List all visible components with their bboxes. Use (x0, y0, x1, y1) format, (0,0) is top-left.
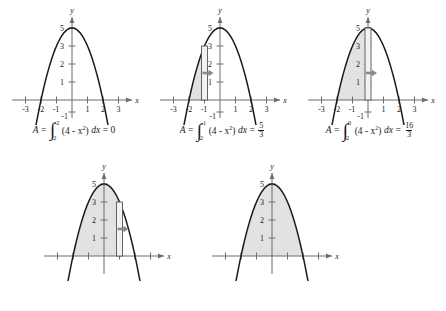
panel-2-caption: A = ∫ -1 -2 (4 - x2) dx = 5 3 (148, 122, 296, 139)
panel-4: 5 3 2 1 x y (32, 156, 180, 311)
result-equals-sign: = (102, 126, 109, 136)
ytick-label: -1 (61, 112, 68, 121)
ytick-label: -1 (357, 112, 364, 121)
panel-5-plot: 5 3 2 1 x y (200, 156, 348, 281)
panel-3-axis-labels: x y (365, 6, 435, 105)
panel-1-axis-labels: x y (69, 6, 139, 105)
x-axis-arrowhead (274, 98, 280, 103)
panel-1-caption: A = ∫ -2 -2 (4 - x2) dx = 0 (0, 122, 148, 139)
xtick-label: 1 (382, 105, 386, 114)
result-equals-sign: = (249, 126, 256, 136)
panel-2-integral-expression: A = ∫ -1 -2 (4 - x2) dx = 5 3 (180, 122, 265, 139)
xtick-label: -3 (318, 105, 325, 114)
panel-5: 5 3 2 1 x y (200, 156, 348, 311)
integral-sign-group: ∫ -2 -2 (50, 122, 59, 139)
differential: dx (91, 126, 100, 136)
area-symbol: A (326, 126, 332, 136)
integral-upper-limit: -1 (201, 120, 206, 126)
integral-upper-limit: 0 (347, 120, 352, 126)
panel-3-caption: A = ∫ 0 -2 (4 - x2) dx = 16 3 (296, 122, 444, 139)
panel-1-axes (12, 17, 132, 118)
panel-2-plot: -3 -2 -1 1 2 3 5 3 2 1 -1 x y (148, 0, 296, 125)
ytick-label: 3 (92, 198, 96, 207)
ytick-label: 1 (260, 234, 264, 243)
xtick-label: 1 (234, 105, 238, 114)
ytick-label: 1 (356, 78, 360, 87)
panel-1: -3 -2 -1 1 2 3 5 3 2 1 -1 x y A (0, 0, 148, 155)
panel-1-plot: -3 -2 -1 1 2 3 5 3 2 1 -1 x y (0, 0, 148, 125)
xtick-label: 3 (265, 105, 269, 114)
panel-1-tick-labels: -3 -2 -1 1 2 3 5 3 2 1 -1 (22, 24, 120, 121)
area-result-fraction: 16 3 (404, 122, 414, 139)
y-axis-label: y (269, 162, 274, 171)
x-axis-arrowhead (326, 254, 332, 259)
ytick-label: 5 (92, 180, 96, 189)
panel-5-axes (212, 173, 332, 274)
y-axis-label: y (217, 6, 222, 15)
ytick-label: 2 (60, 60, 64, 69)
xtick-label: 3 (117, 105, 121, 114)
x-axis-arrowhead (126, 98, 132, 103)
ytick-label: 3 (260, 198, 264, 207)
sweep-rectangle (365, 28, 371, 100)
integrand: (4 - x2) (355, 125, 382, 137)
x-axis-label: x (430, 96, 435, 105)
ytick-label: 3 (356, 42, 360, 51)
x-axis-label: x (334, 252, 339, 261)
equals-sign: = (187, 126, 194, 136)
ytick-label: 5 (260, 180, 264, 189)
differential: dx (238, 126, 247, 136)
ytick-label: 2 (260, 216, 264, 225)
integral-sign-group: ∫ -1 -2 (197, 122, 206, 139)
panel-4-axes (44, 173, 164, 274)
panel-2: -3 -2 -1 1 2 3 5 3 2 1 -1 x y A (148, 0, 296, 155)
area-result-value: 0 (110, 126, 115, 136)
x-axis-label: x (282, 96, 287, 105)
y-axis-arrowhead (218, 17, 223, 23)
xtick-label: -1 (53, 105, 60, 114)
integrand: (4 - x2) (209, 125, 236, 137)
panel-3-integral-expression: A = ∫ 0 -2 (4 - x2) dx = 16 3 (326, 122, 415, 139)
panel-3: -3 -2 -1 1 2 3 5 3 2 1 -1 x y A (296, 0, 444, 155)
xtick-label: -3 (170, 105, 177, 114)
ytick-label: 3 (60, 42, 64, 51)
xtick-label: 1 (86, 105, 90, 114)
shade-path (337, 28, 368, 100)
y-axis-arrowhead (270, 173, 275, 179)
integral-lower-limit: -2 (198, 135, 203, 141)
x-axis-arrowhead (422, 98, 428, 103)
differential: dx (384, 126, 393, 136)
y-axis-arrowhead (70, 17, 75, 23)
ytick-label: 5 (356, 24, 360, 33)
shade-path (73, 184, 120, 256)
panel-3-plot: -3 -2 -1 1 2 3 5 3 2 1 -1 x y (296, 0, 444, 125)
y-axis-arrowhead (102, 173, 107, 179)
x-axis-label: x (166, 252, 171, 261)
panel-2-tick-labels: -3 -2 -1 1 2 3 5 3 2 1 -1 (170, 24, 268, 121)
fraction-denominator: 3 (258, 130, 264, 139)
panel-4-shaded-region (73, 184, 120, 256)
x-axis-label: x (134, 96, 139, 105)
area-symbol: A (33, 126, 39, 136)
ytick-label: 1 (92, 234, 96, 243)
ytick-label: 2 (356, 60, 360, 69)
y-axis-label: y (69, 6, 74, 15)
integral-lower-limit: -2 (51, 135, 56, 141)
integral-sign-group: ∫ 0 -2 (343, 122, 352, 139)
xtick-label: 3 (413, 105, 417, 114)
xtick-label: -3 (22, 105, 29, 114)
fraction-numerator: 16 (404, 122, 414, 130)
y-axis-label: y (101, 162, 106, 171)
ytick-label: 5 (208, 24, 212, 33)
sweep-arrow-head-icon (372, 70, 377, 76)
area-symbol: A (180, 126, 186, 136)
ytick-label: 2 (208, 60, 212, 69)
result-equals-sign: = (395, 126, 402, 136)
fraction-numerator: 5 (258, 122, 264, 130)
ytick-label: 1 (60, 78, 64, 87)
panel-1-integral-expression: A = ∫ -2 -2 (4 - x2) dx = 0 (33, 122, 115, 139)
panel-3-shaded-region (337, 28, 368, 100)
equals-sign: = (333, 126, 340, 136)
integral-area-figure-sheet: -3 -2 -1 1 2 3 5 3 2 1 -1 x y A (0, 0, 446, 311)
integral-upper-limit: -2 (54, 120, 59, 126)
